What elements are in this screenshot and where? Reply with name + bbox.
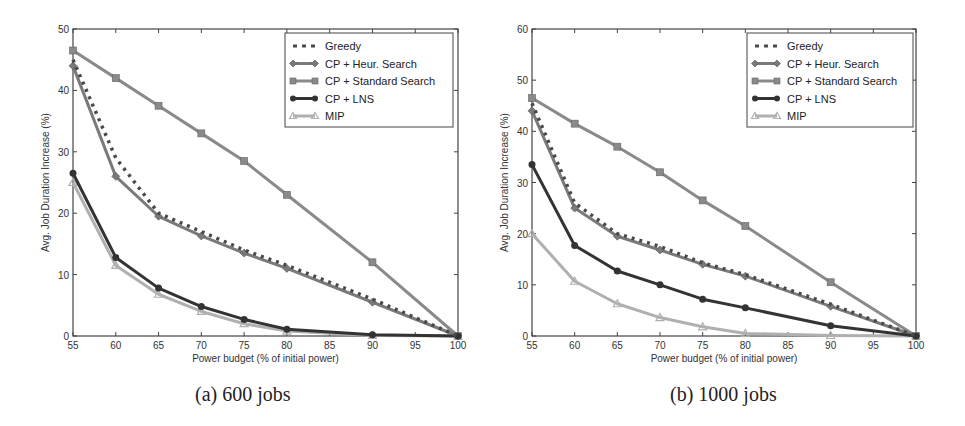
square-marker-icon	[369, 259, 376, 266]
square-marker-icon	[241, 158, 248, 165]
y-tick-label: 30	[58, 147, 70, 158]
line-chart-1000-jobs: 556065707580859095100Power budget (% of …	[482, 0, 965, 380]
caption-600-jobs: (a) 600 jobs	[195, 383, 291, 406]
caption-1000-jobs: (b) 1000 jobs	[670, 383, 777, 406]
square-marker-icon	[290, 78, 296, 84]
x-tick-label: 75	[239, 340, 251, 351]
circle-marker-icon	[312, 96, 318, 102]
y-tick-label: 20	[517, 229, 529, 240]
legend-label: CP + Heur. Search	[325, 58, 417, 70]
x-tick-label: 60	[569, 340, 581, 351]
x-tick-label: 70	[654, 340, 666, 351]
x-tick-label: 100	[450, 340, 467, 351]
legend-label: CP + Standard Search	[787, 75, 897, 87]
square-marker-icon	[283, 191, 290, 198]
x-tick-label: 80	[281, 340, 293, 351]
circle-marker-icon	[571, 242, 578, 249]
circle-marker-icon	[290, 96, 296, 102]
circle-marker-icon	[241, 316, 248, 323]
legend: GreedyCP + Heur. SearchCP + Standard Sea…	[747, 33, 913, 127]
circle-marker-icon	[774, 96, 780, 102]
square-marker-icon	[742, 222, 749, 229]
square-marker-icon	[571, 120, 578, 127]
y-axis-label: Avg. Job Duration Increase (%)	[40, 113, 51, 252]
x-tick-label: 90	[367, 340, 379, 351]
x-tick-label: 65	[153, 340, 165, 351]
chart-panel-600-jobs: 556065707580859095100Power budget (% of …	[0, 0, 482, 426]
y-tick-label: 0	[63, 331, 69, 342]
circle-marker-icon	[657, 281, 664, 288]
x-tick-label: 60	[110, 340, 122, 351]
line-chart-600-jobs: 556065707580859095100Power budget (% of …	[0, 0, 482, 380]
y-tick-label: 40	[58, 85, 70, 96]
circle-marker-icon	[752, 96, 758, 102]
square-marker-icon	[70, 47, 77, 54]
legend-label: CP + Standard Search	[325, 75, 435, 87]
circle-marker-icon	[614, 268, 621, 275]
x-tick-label: 95	[868, 340, 880, 351]
y-tick-label: 30	[517, 178, 529, 189]
x-axis-label: Power budget (% of initial power)	[651, 353, 798, 364]
legend-label: Greedy	[787, 40, 824, 52]
square-marker-icon	[699, 197, 706, 204]
y-tick-label: 50	[517, 75, 529, 86]
circle-marker-icon	[699, 296, 706, 303]
x-tick-label: 80	[740, 340, 752, 351]
square-marker-icon	[774, 78, 780, 84]
circle-marker-icon	[827, 322, 834, 329]
circle-marker-icon	[529, 161, 536, 168]
chart-panel-1000-jobs: 556065707580859095100Power budget (% of …	[482, 0, 965, 426]
x-tick-label: 55	[67, 340, 79, 351]
legend: GreedyCP + Heur. SearchCP + Standard Sea…	[285, 33, 453, 127]
square-marker-icon	[198, 130, 205, 137]
series-mip	[528, 230, 920, 339]
x-tick-label: 90	[825, 340, 837, 351]
x-tick-label: 85	[782, 340, 794, 351]
square-marker-icon	[529, 95, 536, 102]
square-marker-icon	[657, 169, 664, 176]
square-marker-icon	[112, 75, 119, 82]
x-axis-label: Power budget (% of initial power)	[192, 353, 339, 364]
circle-marker-icon	[742, 304, 749, 311]
square-marker-icon	[155, 102, 162, 109]
circle-marker-icon	[369, 331, 376, 338]
legend-label: CP + Heur. Search	[787, 58, 879, 70]
legend-label: CP + LNS	[787, 93, 836, 105]
y-tick-label: 10	[58, 270, 70, 281]
legend-label: MIP	[325, 110, 345, 122]
x-tick-label: 65	[612, 340, 624, 351]
legend-label: CP + LNS	[325, 93, 374, 105]
y-tick-label: 40	[517, 126, 529, 137]
legend-label: Greedy	[325, 40, 362, 52]
circle-marker-icon	[112, 254, 119, 261]
circle-marker-icon	[70, 170, 77, 177]
y-tick-label: 20	[58, 208, 70, 219]
series-cp-lns	[529, 161, 920, 339]
circle-marker-icon	[283, 326, 290, 333]
y-tick-label: 60	[517, 24, 529, 35]
y-tick-label: 0	[522, 331, 528, 342]
circle-marker-icon	[155, 285, 162, 292]
x-tick-label: 70	[196, 340, 208, 351]
square-marker-icon	[312, 78, 318, 84]
x-tick-label: 100	[908, 340, 925, 351]
x-tick-label: 95	[410, 340, 422, 351]
circle-marker-icon	[198, 303, 205, 310]
legend-label: MIP	[787, 110, 807, 122]
y-tick-label: 50	[58, 24, 70, 35]
square-marker-icon	[752, 78, 758, 84]
y-tick-label: 10	[517, 280, 529, 291]
x-tick-label: 75	[697, 340, 709, 351]
y-axis-label: Avg. Job Duration Increase (%)	[499, 113, 510, 252]
x-tick-label: 85	[324, 340, 336, 351]
square-marker-icon	[827, 279, 834, 286]
square-marker-icon	[614, 143, 621, 150]
x-tick-label: 55	[526, 340, 538, 351]
